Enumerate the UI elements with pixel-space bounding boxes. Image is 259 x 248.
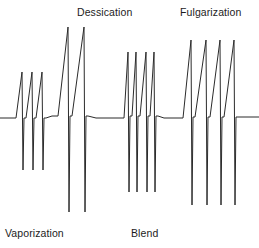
- waveform-label-dessication: Dessication: [77, 6, 132, 18]
- waveform-label-vaporization: Vaporization: [5, 227, 64, 239]
- waveform-chart: [0, 0, 259, 248]
- waveform-label-fulgarization: Fulgarization: [180, 6, 241, 18]
- waveform-figure: Dessication Fulgarization Vaporization B…: [0, 0, 259, 248]
- waveform-label-blend: Blend: [131, 227, 158, 239]
